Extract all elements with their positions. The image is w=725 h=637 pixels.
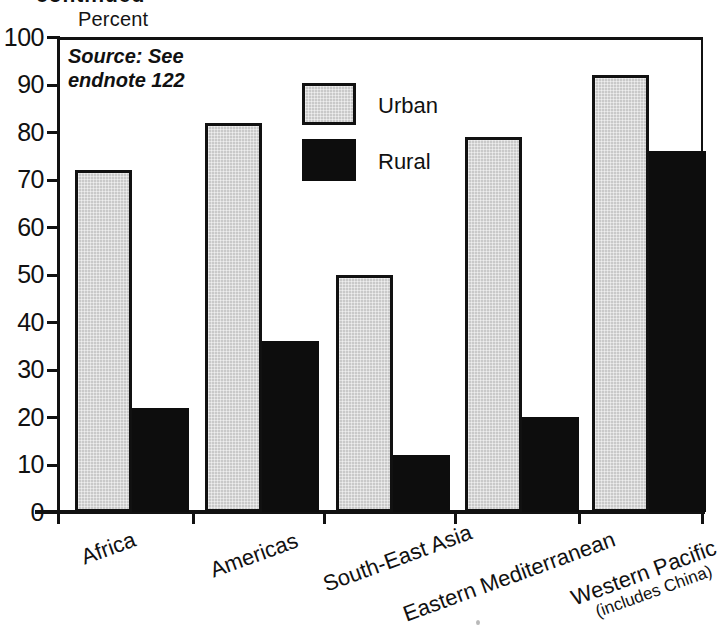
y-tick-mark-20 xyxy=(47,416,60,419)
x-tick-mark-2 xyxy=(323,512,326,524)
y-tick-mark-60 xyxy=(47,226,60,229)
bar-rural-south-east-asia xyxy=(393,455,450,512)
y-tick-label-90: 90 xyxy=(0,72,44,97)
y-tick-mark-70 xyxy=(47,179,60,182)
x-label-africa: Africa xyxy=(78,528,139,569)
x-tick-mark-0 xyxy=(57,512,60,524)
y-tick-mark-30 xyxy=(47,369,60,372)
bar-urban-americas xyxy=(205,123,262,513)
x-tick-mark-4 xyxy=(578,512,581,524)
x-tick-mark-5 xyxy=(701,512,704,524)
bar-urban-eastern-mediterranean xyxy=(465,137,522,512)
bar-urban-south-east-asia xyxy=(336,275,393,513)
bar-urban-africa xyxy=(75,170,132,512)
y-tick-label-10: 10 xyxy=(0,452,44,477)
y-tick-label-40: 40 xyxy=(0,310,44,335)
y-tick-mark-90 xyxy=(47,84,60,87)
legend-label-urban: Urban xyxy=(378,95,438,117)
clipped-heading: continued xyxy=(36,0,145,7)
y-tick-mark-50 xyxy=(47,274,60,277)
bar-rural-africa xyxy=(132,408,189,513)
legend-label-rural: Rural xyxy=(378,151,431,173)
x-tick-mark-1 xyxy=(192,512,195,524)
bar-rural-americas xyxy=(262,341,319,512)
y-tick-label-60: 60 xyxy=(0,215,44,240)
source-note: Source: See endnote 122 xyxy=(68,44,185,92)
y-tick-mark-40 xyxy=(47,321,60,324)
page-speck xyxy=(476,620,480,625)
bar-rural-eastern-mediterranean xyxy=(522,417,579,512)
y-tick-label-20: 20 xyxy=(0,405,44,430)
y-tick-label-70: 70 xyxy=(0,167,44,192)
bar-rural-western-pacific xyxy=(649,151,706,512)
y-tick-mark-10 xyxy=(47,464,60,467)
y-tick-label-80: 80 xyxy=(0,120,44,145)
x-label-americas: Americas xyxy=(207,529,301,582)
y-tick-label-30: 30 xyxy=(0,357,44,382)
chart-screenshot: continued Percent 100 90 80 70 60 50 40 … xyxy=(0,0,725,637)
bar-urban-western-pacific xyxy=(592,75,649,512)
y-axis-title: Percent xyxy=(78,8,148,30)
y-tick-mark-80 xyxy=(47,131,60,134)
y-tick-label-0: 0 xyxy=(0,500,44,525)
y-tick-mark-100 xyxy=(47,36,60,39)
rural-swatch xyxy=(302,139,356,181)
y-tick-label-100: 100 xyxy=(0,25,44,50)
y-tick-label-50: 50 xyxy=(0,262,44,287)
urban-swatch xyxy=(302,83,356,125)
